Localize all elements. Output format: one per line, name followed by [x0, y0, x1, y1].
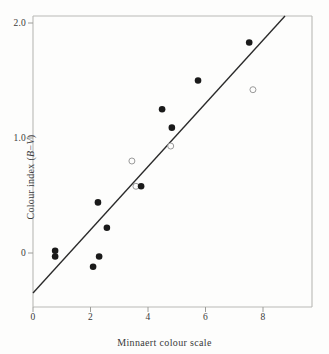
filled-circle-markers — [52, 39, 253, 270]
data-point-filled — [52, 247, 59, 254]
data-point-filled — [246, 39, 253, 46]
open-circle-markers — [129, 87, 256, 190]
data-point-filled — [90, 264, 97, 271]
x-tick-label-2: 2 — [88, 312, 93, 322]
x-tick-label-6: 6 — [203, 312, 208, 322]
data-point-filled — [159, 106, 166, 113]
x-tick-label-8: 8 — [261, 312, 266, 322]
data-point-open — [168, 143, 174, 149]
data-point-filled — [195, 77, 202, 84]
data-point-filled — [52, 253, 59, 260]
y-tick-label-1: 1.0 — [4, 133, 26, 143]
y-axis-title-b: B — [25, 151, 36, 157]
y-axis-title-minus: − — [25, 145, 36, 151]
y-tick-label-0: 0 — [4, 248, 26, 258]
data-point-filled — [169, 124, 176, 131]
data-point-filled — [104, 224, 111, 231]
regression-line — [33, 16, 285, 293]
plot-frame — [33, 16, 312, 307]
data-point-open — [129, 158, 135, 164]
y-axis-title-v: V — [25, 138, 36, 144]
y-tick-label-2: 2.0 — [4, 18, 26, 28]
x-axis-title: Minnaert colour scale — [0, 337, 329, 348]
x-tick-label-4: 4 — [146, 312, 151, 322]
y-axis-title-suffix: ) — [25, 135, 36, 139]
scatter-plot-figure: 0 2 4 6 8 2.0 1.0 0 Minnaert colour scal… — [0, 0, 329, 354]
data-point-filled — [95, 199, 102, 206]
data-point-filled — [96, 253, 103, 260]
data-point-open — [250, 87, 256, 93]
plot-canvas — [0, 0, 329, 354]
x-tick-label-0: 0 — [31, 312, 36, 322]
data-point-filled — [138, 183, 145, 190]
y-axis-title: Colour index (B−V) — [25, 87, 39, 267]
y-axis-title-prefix: Colour index ( — [25, 157, 36, 220]
